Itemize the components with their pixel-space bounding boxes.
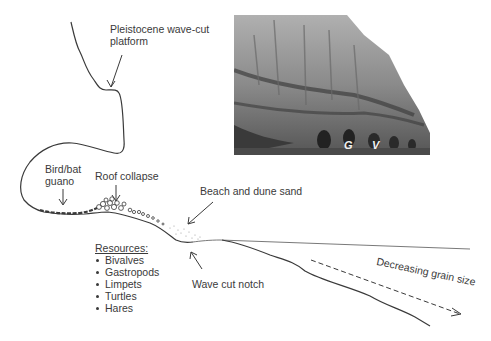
cliff-photograph: G V xyxy=(234,15,430,155)
cliff-outline xyxy=(21,22,193,242)
label-wave-cut-notch: Wave cut notch xyxy=(192,278,264,290)
label-arrows xyxy=(59,55,213,269)
label-beach-dune-sand: Beach and dune sand xyxy=(200,185,302,197)
photo-marker-g: G xyxy=(344,139,353,151)
resources-title: Resources: xyxy=(95,242,159,254)
roof-collapse-boulders xyxy=(97,197,164,225)
sea-level-line xyxy=(193,240,470,249)
resource-item: Hares xyxy=(95,302,159,314)
label-bird-bat-guano: Bird/bat guano xyxy=(45,163,85,187)
grain-size-arrow-head xyxy=(451,308,461,316)
beach-sand-stipple xyxy=(169,225,200,239)
resource-item: Bivalves xyxy=(95,254,159,266)
photo-marker-v: V xyxy=(372,139,379,151)
guano-layer xyxy=(40,208,97,213)
resources-list: Resources: Bivalves Gastropods Limpets T… xyxy=(95,242,159,314)
cliff-photo-illustration xyxy=(234,15,430,155)
resource-item: Limpets xyxy=(95,278,159,290)
cave-profile-diagram: G V Pleistocene wave-cut platform Bird/b… xyxy=(0,0,491,341)
resource-item: Gastropods xyxy=(95,266,159,278)
label-roof-collapse: Roof collapse xyxy=(95,170,159,182)
label-pleistocene-platform: Pleistocene wave-cut platform xyxy=(110,23,230,47)
resource-item: Turtles xyxy=(95,290,159,302)
